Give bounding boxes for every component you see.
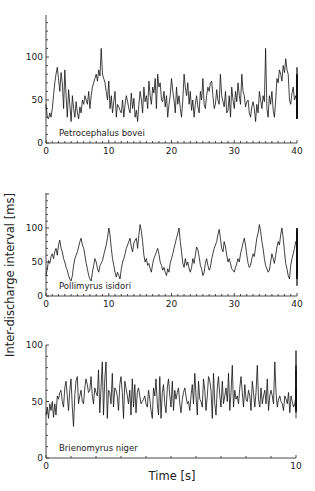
x-tick-label: 0 [43, 299, 49, 309]
x-tick-label: 20 [166, 146, 178, 156]
y-tick-label: 0 [37, 291, 43, 301]
y-tick-label: 50 [32, 397, 44, 407]
axes: 010203040050100 [26, 193, 303, 309]
y-tick-label: 100 [26, 52, 43, 62]
x-tick-label: 40 [291, 299, 303, 309]
y-tick-label: 50 [32, 95, 44, 105]
panel-petrocephalus-bovei: 010203040050100Petrocephalus bovei [26, 15, 303, 156]
x-tick-label: 30 [229, 146, 241, 156]
y-axis-title: Inter-discharge interval [ms] [3, 193, 17, 357]
y-tick-label: 100 [26, 223, 43, 233]
y-tick-label: 0 [37, 138, 43, 148]
x-tick-label: 10 [103, 299, 115, 309]
interval-trace [46, 351, 296, 427]
x-axis-title: Time [s] [148, 469, 196, 483]
x-tick-label: 40 [291, 146, 303, 156]
x-tick-label: 10 [290, 461, 302, 471]
x-tick-label: 0 [43, 461, 49, 471]
species-label: Pollimyrus isidori [59, 281, 131, 291]
panel-pollimyrus-isidori: 010203040050100Pollimyrus isidori [26, 193, 303, 309]
x-tick-label: 10 [103, 146, 115, 156]
x-tick-label: 0 [43, 146, 49, 156]
x-tick-label: 20 [166, 299, 178, 309]
interval-trace [46, 48, 297, 121]
species-label: Brienomyrus niger [59, 443, 138, 453]
species-label: Petrocephalus bovei [59, 128, 145, 138]
y-tick-label: 0 [37, 453, 43, 463]
y-tick-label: 50 [32, 257, 44, 267]
x-tick-label: 30 [229, 299, 241, 309]
panel-brienomyrus-niger: 010050100Brienomyrus niger [26, 340, 302, 471]
interval-trace [46, 225, 297, 286]
y-tick-label: 100 [26, 340, 43, 350]
figure-canvas: Inter-discharge interval [ms] Time [s] 0… [0, 0, 315, 491]
